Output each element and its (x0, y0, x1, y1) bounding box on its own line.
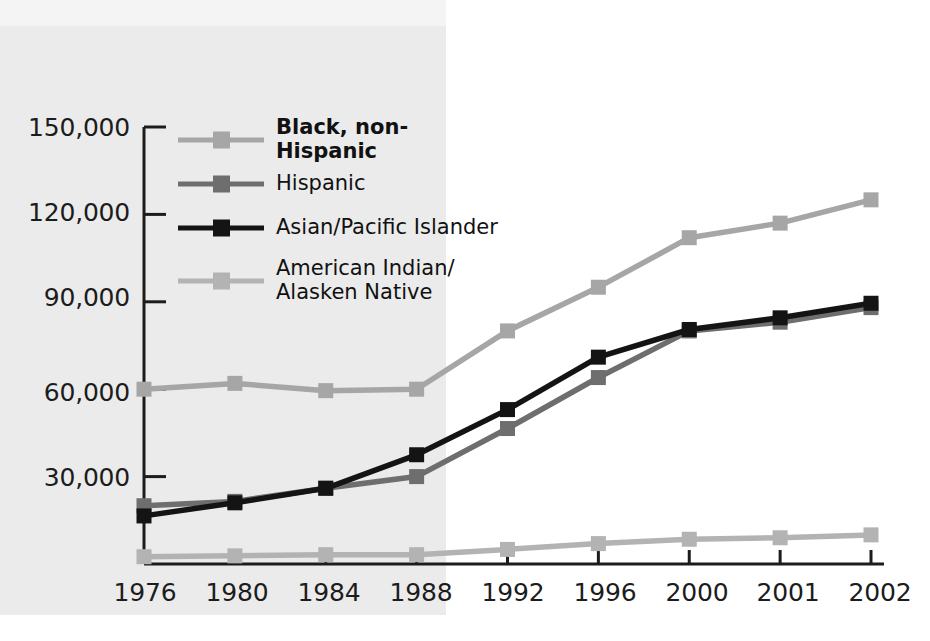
legend-item-hispanic: Hispanic (178, 162, 508, 206)
y-tick-label-30000: 30,000 (6, 463, 130, 492)
x-tick-label-2000: 2000 (647, 578, 747, 607)
data-point-marker (409, 547, 424, 562)
data-point-marker (227, 376, 242, 391)
data-point-marker (318, 547, 333, 562)
data-point-marker (227, 495, 242, 510)
chart-container: 150,000 120,000 90,000 60,000 30,000 197… (0, 0, 930, 641)
data-point-marker (409, 382, 424, 397)
x-tick-label-1988: 1988 (371, 578, 471, 607)
y-tick-label-120000: 120,000 (6, 198, 130, 227)
legend-swatch-icon-asian-pacific-islander (178, 218, 264, 238)
data-point-marker (773, 310, 788, 325)
y-axis-ticks (144, 127, 166, 477)
x-tick-label-1984: 1984 (279, 578, 379, 607)
legend-swatch-icon-hispanic (178, 174, 264, 194)
data-point-marker (318, 481, 333, 496)
data-point-marker (591, 350, 606, 365)
data-point-marker (591, 536, 606, 551)
data-point-marker (864, 192, 879, 207)
data-point-marker (409, 447, 424, 462)
y-tick-label-60000: 60,000 (6, 378, 130, 407)
data-point-marker (864, 296, 879, 311)
x-tick-label-1996: 1996 (555, 578, 655, 607)
data-point-marker (137, 508, 152, 523)
x-tick-label-2002: 2002 (830, 578, 930, 607)
legend-label-asian-pacific-islander: Asian/Pacific Islander (276, 216, 498, 240)
legend-label-american-indian-alasken-native: American Indian/ Alasken Native (276, 257, 455, 304)
data-point-marker (137, 382, 152, 397)
data-point-marker (500, 421, 515, 436)
legend-swatch-icon-black-non-hispanic (178, 130, 264, 150)
legend-item-asian-pacific-islander: Asian/Pacific Islander (178, 206, 508, 250)
data-point-marker (682, 322, 697, 337)
legend-swatch-icon-american-indian-alasken-native (178, 271, 264, 291)
x-tick-label-1980: 1980 (187, 578, 287, 607)
data-point-marker (409, 469, 424, 484)
legend-item-american-indian-alasken-native: American Indian/ Alasken Native (178, 250, 508, 312)
data-point-marker (682, 230, 697, 245)
data-point-marker (500, 323, 515, 338)
data-point-marker (137, 549, 152, 564)
x-tick-label-2001: 2001 (738, 578, 838, 607)
data-point-marker (500, 402, 515, 417)
y-tick-label-150000: 150,000 (6, 113, 130, 142)
y-tick-label-90000: 90,000 (6, 283, 130, 312)
data-point-marker (773, 216, 788, 231)
data-point-marker (227, 548, 242, 563)
x-tick-label-1976: 1976 (95, 578, 195, 607)
data-point-marker (864, 527, 879, 542)
data-point-marker (318, 383, 333, 398)
data-point-marker (591, 370, 606, 385)
data-point-marker (773, 530, 788, 545)
line-chart-plot (0, 0, 930, 641)
data-point-marker (500, 542, 515, 557)
data-point-marker (682, 532, 697, 547)
legend-label-black-non-hispanic: Black, non-Hispanic (276, 116, 508, 163)
legend-label-hispanic: Hispanic (276, 172, 365, 196)
chart-legend: Black, non-Hispanic Hispanic Asian/Pacif… (178, 118, 508, 312)
data-point-marker (591, 280, 606, 295)
legend-item-black-non-hispanic: Black, non-Hispanic (178, 118, 508, 162)
x-tick-label-1992: 1992 (463, 578, 563, 607)
